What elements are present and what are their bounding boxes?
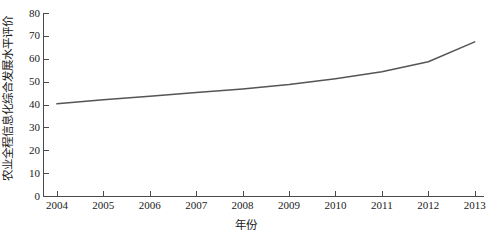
y-axis-tick-label: 70: [18, 30, 40, 41]
y-axis-title: 农业全程信息化综合发展水平评价: [0, 0, 16, 197]
series-line-0: [57, 42, 475, 104]
line-chart: 农业全程信息化综合发展水平评价 01020304050607080 200420…: [0, 0, 492, 242]
x-axis-tick-label: 2011: [360, 199, 404, 212]
plot-area: [43, 13, 484, 197]
y-axis-tick: [44, 196, 49, 197]
y-axis-tick: [44, 59, 49, 60]
y-axis-tick: [44, 150, 49, 151]
x-axis-tick-label: 2009: [267, 199, 311, 212]
y-axis-tick-label: 10: [18, 168, 40, 179]
x-axis-tick-label: 2006: [128, 199, 172, 212]
x-axis-tick: [475, 191, 476, 196]
y-axis-tick-label: 30: [18, 122, 40, 133]
x-axis-tick-labels: 2004200520062007200820092010201120122013: [0, 199, 492, 215]
series-line-svg: [43, 13, 484, 197]
x-axis-tick: [196, 191, 197, 196]
y-axis-tick: [44, 105, 49, 106]
y-axis-title-text: 农业全程信息化综合发展水平评价: [2, 16, 14, 181]
x-axis-title: 年份: [0, 216, 492, 232]
x-axis-tick-label: 2007: [174, 199, 218, 212]
y-axis-tick-label: 80: [18, 8, 40, 19]
y-axis-tick: [44, 173, 49, 174]
x-axis-tick: [57, 191, 58, 196]
x-axis-tick: [103, 191, 104, 196]
y-axis-tick-label: 40: [18, 99, 40, 110]
y-axis-tick-label: 20: [18, 145, 40, 156]
x-axis-tick: [243, 191, 244, 196]
y-axis-tick: [44, 36, 49, 37]
x-axis-tick-label: 2012: [406, 199, 450, 212]
y-axis-tick-label: 60: [18, 53, 40, 64]
x-axis-tick-label: 2010: [313, 199, 357, 212]
y-axis-tick: [44, 13, 49, 14]
x-axis-tick: [382, 191, 383, 196]
x-axis-tick-label: 2008: [221, 199, 265, 212]
x-axis-tick: [289, 191, 290, 196]
x-axis-tick-label: 2004: [35, 199, 79, 212]
x-axis-tick-label: 2013: [453, 199, 492, 212]
y-axis-tick: [44, 82, 49, 83]
x-axis-tick: [335, 191, 336, 196]
x-axis-tick: [428, 191, 429, 196]
x-axis-tick: [150, 191, 151, 196]
x-axis-tick-label: 2005: [81, 199, 125, 212]
y-axis-tick: [44, 127, 49, 128]
y-axis-tick-label: 50: [18, 76, 40, 87]
